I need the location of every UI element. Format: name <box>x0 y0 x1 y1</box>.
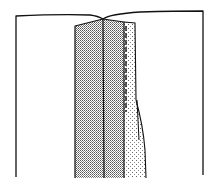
sewing-diagram <box>0 0 217 188</box>
diagram-canvas <box>0 0 217 188</box>
underlap-facing <box>124 22 146 178</box>
left-placket-panel <box>75 19 124 178</box>
